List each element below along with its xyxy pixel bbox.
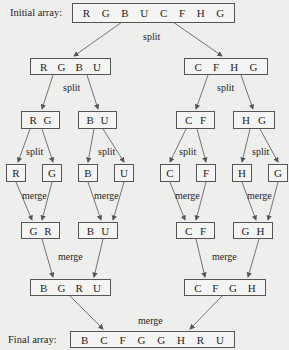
initial-array-label: Initial array:	[10, 8, 62, 19]
single-box: U	[114, 164, 134, 182]
merge-label: merge	[175, 191, 200, 201]
array-cell: G	[137, 334, 145, 346]
array-cell: G	[242, 225, 250, 237]
array-cell: H	[177, 334, 185, 346]
array-cell: G	[258, 114, 266, 126]
array-cell: H	[242, 114, 250, 126]
array-cell: R	[44, 225, 51, 237]
array-cell: R	[29, 114, 36, 126]
split-label: split	[26, 147, 43, 157]
array-cell: C	[185, 114, 192, 126]
split1-left-box: R G B U	[30, 58, 111, 75]
split2-d-box: H G	[233, 111, 275, 129]
single-box: C	[160, 164, 180, 182]
array-cell: G	[229, 282, 237, 294]
array-cell: F	[200, 225, 206, 237]
array-cell: U	[101, 114, 109, 126]
array-cell: R	[40, 61, 47, 73]
array-cell: G	[216, 7, 224, 19]
array-cell: R	[83, 7, 90, 19]
initial-array-box: R G B U C F H G	[72, 3, 235, 23]
array-cell: F	[179, 7, 185, 19]
merge-label: merge	[58, 252, 83, 262]
split2-b-box: B U	[78, 111, 117, 129]
array-cell: G	[44, 114, 52, 126]
split1-right-box: C F H G	[184, 58, 268, 75]
array-cell: C	[194, 282, 201, 294]
split2-a-box: R G	[21, 111, 60, 129]
array-cell: C	[166, 167, 173, 179]
array-cell: G	[57, 282, 65, 294]
single-box: F	[196, 164, 216, 182]
array-cell: R	[76, 282, 83, 294]
array-cell: G	[48, 167, 56, 179]
array-cell: U	[140, 7, 148, 19]
single-box: H	[232, 164, 252, 182]
split-label: split	[217, 83, 234, 93]
array-cell: G	[157, 334, 165, 346]
merge-label: merge	[212, 252, 237, 262]
array-cell: G	[249, 61, 257, 73]
single-box: G	[42, 164, 62, 182]
final-array-label: Final array:	[8, 335, 57, 346]
array-cell: H	[238, 167, 246, 179]
array-cell: H	[230, 61, 238, 73]
array-cell: R	[197, 334, 204, 346]
merge2-left-box: B G R U	[30, 279, 111, 296]
array-cell: R	[12, 167, 19, 179]
split-label: split	[252, 147, 269, 157]
merge-label: merge	[247, 191, 272, 201]
array-cell: C	[185, 225, 192, 237]
final-array-box: B C F G G H R U	[70, 331, 235, 348]
array-cell: U	[216, 334, 224, 346]
split-label: split	[179, 147, 196, 157]
array-cell: B	[87, 225, 94, 237]
array-cell: G	[102, 7, 110, 19]
split-label: split	[143, 32, 160, 42]
array-cell: U	[93, 282, 101, 294]
single-box: B	[78, 164, 98, 182]
array-cell: H	[248, 282, 256, 294]
array-cell: B	[84, 167, 91, 179]
array-cell: U	[93, 61, 101, 73]
array-cell: F	[203, 167, 209, 179]
array-cell: B	[81, 334, 88, 346]
merge-label: merge	[138, 316, 163, 326]
array-cell: F	[200, 114, 206, 126]
array-cell: H	[257, 225, 265, 237]
array-cell: F	[213, 61, 219, 73]
array-cell: H	[197, 7, 205, 19]
merge1-c-box: C F	[176, 222, 215, 239]
single-box: G	[268, 164, 288, 182]
array-cell: F	[212, 282, 218, 294]
single-box: R	[6, 164, 26, 182]
array-cell: B	[86, 114, 93, 126]
array-cell: U	[101, 225, 109, 237]
array-cell: G	[274, 167, 282, 179]
arrow	[173, 22, 222, 56]
array-cell: B	[76, 61, 83, 73]
array-cell: C	[195, 61, 202, 73]
merge-label: merge	[22, 191, 47, 201]
array-cell: G	[29, 225, 37, 237]
array-cell: B	[40, 282, 47, 294]
array-cell: B	[121, 7, 128, 19]
array-cell: G	[57, 61, 65, 73]
merge2-right-box: C F G H	[184, 279, 266, 296]
merge1-a-box: G R	[21, 222, 60, 239]
array-cell: F	[119, 334, 125, 346]
merge1-b-box: B U	[78, 222, 118, 239]
array-cell: C	[100, 334, 107, 346]
split-label: split	[63, 83, 80, 93]
arrow	[74, 22, 122, 56]
array-cell: C	[160, 7, 167, 19]
split2-c-box: C F	[176, 111, 215, 129]
split-label: split	[98, 147, 115, 157]
array-cell: U	[120, 167, 128, 179]
merge1-d-box: G H	[233, 222, 273, 239]
merge-label: merge	[94, 191, 119, 201]
